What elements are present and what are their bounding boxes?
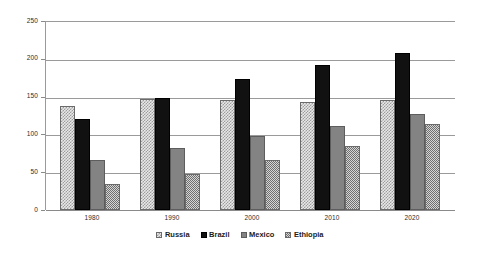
bar-ethiopia-2020 (425, 124, 440, 210)
y-tick-label-200: 200 (4, 55, 38, 62)
legend-label-ethiopia: Ethiopia (294, 231, 324, 239)
bar-brazil-1980 (75, 119, 90, 210)
bar-brazil-2010 (315, 65, 330, 210)
bar-group-2010 (300, 22, 366, 210)
bar-russia-1980 (60, 106, 75, 211)
legend-item-brazil: Brazil (201, 231, 230, 239)
bar-russia-2000 (220, 100, 235, 211)
y-tick-mark-0 (41, 210, 45, 211)
y-tick-label-150: 150 (4, 93, 38, 100)
legend-swatch-mexico-icon (241, 232, 247, 238)
legend-swatch-russia-icon (156, 232, 162, 238)
bar-russia-2010 (300, 102, 315, 210)
chart-legend: Russia Brazil Mexico Ethiopia (0, 231, 480, 239)
legend-label-mexico: Mexico (249, 231, 274, 239)
bar-brazil-2020 (395, 53, 410, 210)
bar-mexico-2000 (250, 136, 265, 210)
bar-group-2020 (380, 22, 446, 210)
legend-swatch-ethiopia-icon (285, 232, 291, 238)
bar-ethiopia-1980 (105, 184, 120, 210)
legend-item-russia: Russia (156, 231, 189, 239)
bar-group-1990 (140, 22, 206, 210)
legend-label-russia: Russia (165, 231, 190, 239)
plot-area (45, 21, 455, 210)
bar-russia-1990 (140, 99, 155, 210)
legend-label-brazil: Brazil (209, 231, 229, 239)
x-tick-label-2020: 2020 (382, 215, 442, 222)
y-tick-label-100: 100 (4, 131, 38, 138)
bar-brazil-1990 (155, 98, 170, 210)
bar-chart: 250 200 150 100 50 0 (0, 0, 480, 257)
x-tick-label-2000: 2000 (222, 215, 282, 222)
y-tick-label-50: 50 (4, 169, 38, 176)
bar-group-2000 (220, 22, 286, 210)
bar-ethiopia-1990 (185, 174, 200, 210)
bar-mexico-2020 (410, 114, 425, 210)
bar-mexico-2010 (330, 126, 345, 210)
bar-mexico-1980 (90, 160, 105, 210)
bar-group-1980 (60, 22, 126, 210)
legend-item-mexico: Mexico (241, 231, 275, 239)
bar-russia-2020 (380, 100, 395, 211)
bar-mexico-1990 (170, 148, 185, 210)
x-tick-label-2010: 2010 (302, 215, 362, 222)
y-tick-label-250: 250 (4, 18, 38, 25)
y-tick-label-0: 0 (4, 207, 38, 214)
gridline-0 (46, 210, 455, 211)
legend-item-ethiopia: Ethiopia (285, 231, 323, 239)
legend-swatch-brazil-icon (201, 232, 207, 238)
bar-ethiopia-2010 (345, 146, 360, 210)
bar-ethiopia-2000 (265, 160, 280, 210)
x-tick-label-1980: 1980 (62, 215, 122, 222)
bar-brazil-2000 (235, 79, 250, 210)
x-tick-label-1990: 1990 (142, 215, 202, 222)
